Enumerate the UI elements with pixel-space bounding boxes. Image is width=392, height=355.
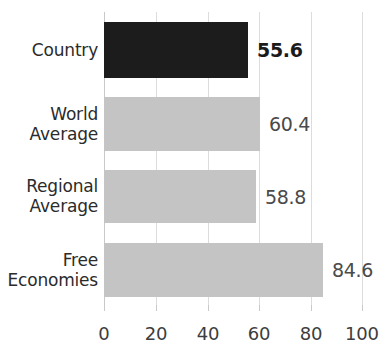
category-label-free-economies: Free Economies [2, 250, 98, 290]
bar-country [104, 22, 248, 78]
value-label-regional-average: 58.8 [265, 188, 306, 207]
category-label-regional-average: Regional Average [2, 176, 98, 216]
xtick-label-80: 80 [300, 324, 323, 344]
tick-mark-0 [104, 305, 105, 311]
value-label-free-economies: 84.6 [332, 261, 373, 280]
xtick-label-100: 100 [345, 324, 379, 344]
plot-area: 55.6 60.4 58.8 84.6 0 20 40 60 80 100 [104, 12, 363, 305]
xtick-label-60: 60 [248, 324, 271, 344]
category-label-world-average: World Average [2, 104, 98, 144]
xtick-label-20: 20 [145, 324, 168, 344]
xtick-label-0: 0 [98, 324, 109, 344]
tick-mark-60 [259, 305, 260, 311]
bar-regional-average [104, 170, 256, 223]
tick-mark-80 [311, 305, 312, 311]
xtick-label-40: 40 [197, 324, 220, 344]
tick-mark-40 [208, 305, 209, 311]
bar-chart: Country World Average Regional Average F… [0, 0, 392, 355]
tick-mark-20 [156, 305, 157, 311]
value-label-country: 55.6 [257, 41, 303, 60]
category-label-country: Country [2, 40, 98, 60]
value-label-world-average: 60.4 [269, 115, 310, 134]
bar-free-economies [104, 243, 323, 297]
bar-world-average [104, 97, 260, 151]
tick-mark-100 [362, 305, 363, 311]
